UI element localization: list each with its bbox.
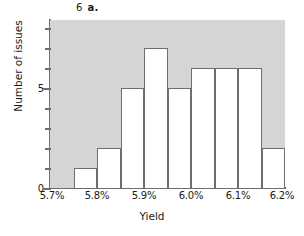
histogram-bar <box>238 68 262 188</box>
y-axis-title: Number of issues <box>12 0 24 136</box>
y-axis-tick-labels: 05 <box>30 20 44 188</box>
x-axis-tick-label: 5.7% <box>40 190 65 201</box>
histogram-bar <box>168 88 192 188</box>
histogram-bar <box>121 88 145 188</box>
y-axis-minor-tick <box>45 128 51 130</box>
x-axis-title: Yield <box>0 210 304 222</box>
histogram-bar <box>262 148 286 188</box>
histogram-bar <box>215 68 239 188</box>
plot-area <box>50 20 285 188</box>
y-axis-minor-tick <box>45 168 51 170</box>
x-axis-tick-label: 5.9% <box>132 190 157 201</box>
x-axis-tick-label: 6.2% <box>270 190 295 201</box>
x-axis-tick-label: 6.1% <box>226 190 251 201</box>
x-axis-tick-label: 6.0% <box>179 190 204 201</box>
figure-number: 6 <box>76 2 83 13</box>
y-axis-minor-tick <box>45 28 51 30</box>
histogram-bar <box>191 68 215 188</box>
figure-title: 6a. <box>76 2 99 13</box>
histogram-bar <box>74 168 98 188</box>
histogram-bars <box>50 20 285 188</box>
histogram-bar <box>97 148 121 188</box>
y-axis-minor-tick <box>45 108 51 110</box>
x-axis-tick-labels: 5.7%5.8%5.9%6.0%6.1%6.2% <box>50 190 285 206</box>
histogram-bar <box>144 48 168 188</box>
y-axis-minor-tick <box>45 68 51 70</box>
y-axis-major-tick <box>43 88 51 90</box>
y-axis-minor-tick <box>45 48 51 50</box>
figure-part-label: a. <box>88 2 99 13</box>
x-axis-tick-label: 5.8% <box>85 190 110 201</box>
y-axis-minor-tick <box>45 148 51 150</box>
